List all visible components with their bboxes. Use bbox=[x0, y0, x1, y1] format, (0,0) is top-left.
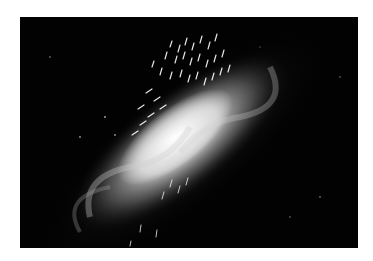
galaxy-image bbox=[20, 17, 358, 248]
galaxy-illustration bbox=[20, 17, 358, 248]
